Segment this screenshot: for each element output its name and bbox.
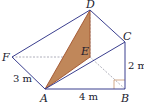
- measure-AB: 4 m: [79, 91, 99, 102]
- label-F: F: [1, 51, 10, 64]
- measure-BC: 2 m: [128, 60, 144, 71]
- label-E: E: [80, 45, 89, 58]
- measure-AF: 3 m: [13, 73, 33, 84]
- prism-diagram: D C E F A B 3 m 4 m 2 m: [0, 0, 144, 105]
- edge-EB-hidden: [90, 57, 125, 89]
- label-D: D: [85, 0, 95, 11]
- label-A: A: [39, 92, 48, 105]
- label-C: C: [123, 30, 132, 43]
- label-B: B: [120, 92, 129, 105]
- edge-DC: [90, 10, 125, 42]
